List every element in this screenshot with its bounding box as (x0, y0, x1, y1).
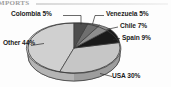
pie-label-venezuela: Venezuela 5% (106, 10, 149, 18)
pie-label-colombia: Colombia 5% (11, 10, 52, 18)
pie-label-usa: USA 30% (112, 72, 140, 80)
pie-chart-figure: MPORTS (0, 0, 171, 87)
pie-label-chile: Chile 7% (120, 22, 147, 30)
pie-slices (26, 23, 121, 74)
pie-label-spain: Spain 9% (122, 34, 151, 42)
pie-label-other: Other 44% (3, 39, 35, 47)
leader-line-venezuela (93, 16, 105, 25)
